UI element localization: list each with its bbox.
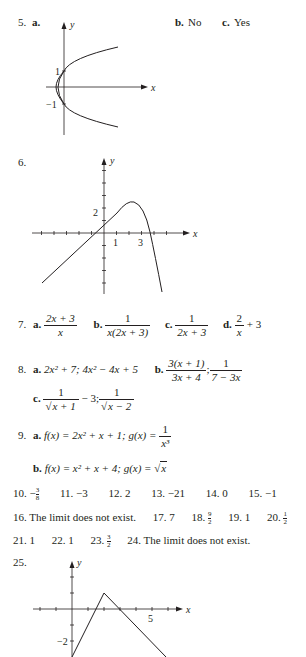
x-tick-label-5: 5 [148,613,153,624]
problem-25-graph: 5 −2 y x [0,0,306,657]
y-tick-label-neg2: −2 [57,636,68,647]
y-axis-label: y [76,557,82,568]
x-axis-label: x [185,604,191,615]
